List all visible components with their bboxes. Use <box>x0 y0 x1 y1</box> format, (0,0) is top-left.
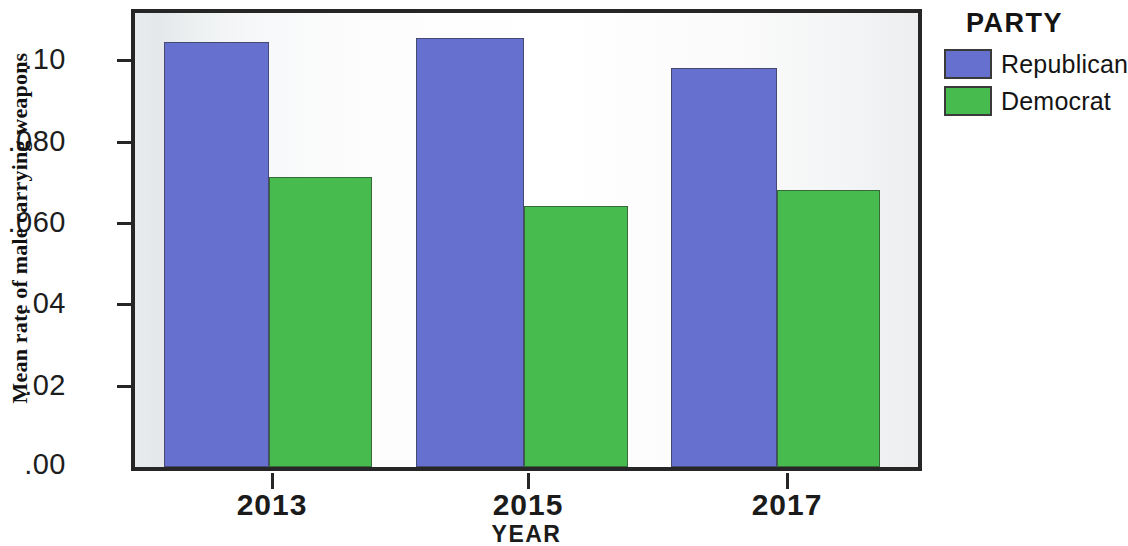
legend-swatch-democrat <box>944 86 992 116</box>
legend-swatch-republican <box>944 49 992 79</box>
x-tick-label-2015: 2015 <box>448 488 608 522</box>
legend-item-democrat: Democrat <box>944 86 1119 116</box>
bar-2013-democrat <box>269 177 372 467</box>
y-tick-mark-04 <box>117 303 131 306</box>
x-tick-mark-2017 <box>786 473 789 489</box>
legend-item-republican: Republican <box>944 49 1119 79</box>
y-axis-title: Mean rate of male carrying weapons <box>7 53 32 404</box>
bar-2017-democrat <box>777 190 880 467</box>
bar-2013-republican <box>164 42 269 467</box>
x-tick-label-2013: 2013 <box>192 488 352 522</box>
legend-label-democrat: Democrat <box>1001 87 1111 116</box>
bar-2015-democrat <box>524 206 628 467</box>
y-tick-mark-080 <box>117 141 131 144</box>
y-tick-mark-10 <box>117 59 131 62</box>
x-tick-mark-2013 <box>271 473 274 489</box>
y-tick-mark-060 <box>117 222 131 225</box>
x-tick-mark-2015 <box>527 473 530 489</box>
x-tick-label-2017: 2017 <box>707 488 867 522</box>
bars-container <box>135 13 918 467</box>
y-tick-mark-02 <box>117 385 131 388</box>
bar-2017-republican <box>671 68 777 467</box>
legend: PARTY Republican Democrat <box>944 8 1119 123</box>
x-axis-title: YEAR <box>131 521 922 546</box>
legend-label-republican: Republican <box>1001 50 1128 79</box>
legend-title: PARTY <box>966 8 1119 39</box>
bar-2015-republican <box>416 38 524 467</box>
y-axis-title-wrap: Mean rate of male carrying weapons <box>7 0 33 463</box>
